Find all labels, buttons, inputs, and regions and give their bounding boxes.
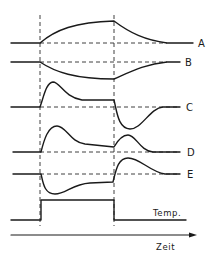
- trace-b: B: [11, 57, 192, 79]
- trace-e-label: E: [187, 169, 193, 180]
- trace-a-label: A: [198, 38, 205, 49]
- trace-a-curve: [11, 21, 193, 43]
- trace-d-curve: [13, 126, 180, 152]
- trace-b-label: B: [185, 57, 192, 68]
- time-axis: Zeit: [11, 233, 197, 253]
- timing-diagram: A B C D E Temp. Zeit: [0, 0, 210, 259]
- trace-c: C: [11, 82, 193, 129]
- trace-c-label: C: [186, 102, 193, 113]
- trace-b-curve: [11, 62, 180, 79]
- time-axis-label: Zeit: [156, 242, 175, 252]
- time-axis-arrowhead: [189, 233, 197, 238]
- trace-d-label: D: [187, 147, 195, 158]
- trace-c-curve: [11, 82, 180, 129]
- trace-e-curve: [13, 158, 180, 194]
- temperature-trace: Temp.: [11, 200, 186, 220]
- temperature-label: Temp.: [152, 208, 181, 218]
